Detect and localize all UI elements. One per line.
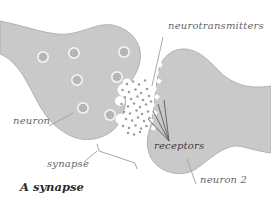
fusing-vesicle-cloud bbox=[115, 79, 148, 133]
vesicle bbox=[111, 71, 123, 83]
vesicle bbox=[37, 51, 49, 63]
vesicle bbox=[68, 47, 80, 59]
pointer-bracket-synapse bbox=[97, 144, 137, 169]
vesicle bbox=[71, 74, 83, 86]
label-neurotransmitters: neurotransmitters bbox=[168, 21, 264, 31]
vesicle bbox=[118, 46, 130, 58]
label-neuron-2: neuron 2 bbox=[200, 175, 247, 185]
label-neuron: neuron bbox=[13, 116, 50, 126]
synapse-diagram: neurotransmitters neuron synapse recepto… bbox=[0, 0, 271, 199]
vesicle bbox=[77, 102, 89, 114]
figure-caption: A synapse bbox=[20, 182, 84, 194]
postsynaptic-neuron-shape bbox=[147, 49, 271, 174]
label-synapse: synapse bbox=[47, 159, 89, 169]
label-receptors: receptors bbox=[154, 141, 204, 151]
vesicle bbox=[104, 109, 116, 121]
